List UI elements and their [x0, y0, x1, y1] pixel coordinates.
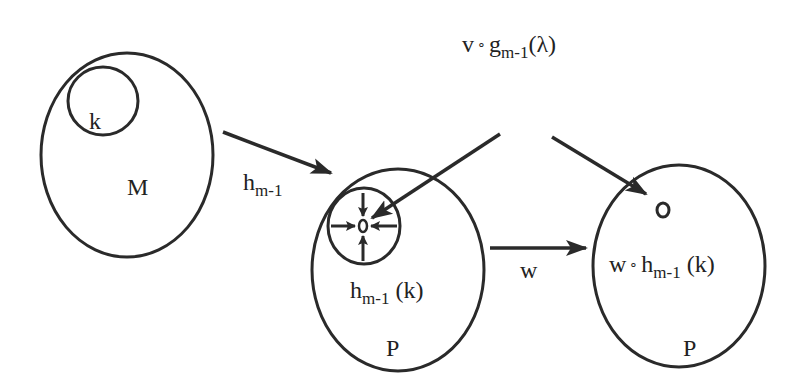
label-g-sub: m-1 — [501, 43, 528, 62]
label-k: k — [89, 109, 101, 133]
label-w-image-arg: (k) — [681, 251, 715, 277]
subset-k-circle — [68, 67, 138, 135]
label-h-image-base: h — [350, 277, 362, 303]
label-m: M — [127, 175, 148, 199]
set-m-circle — [41, 53, 213, 257]
compose-symbol: ∘ — [626, 257, 641, 272]
arrow-v-g-to-right — [552, 137, 646, 194]
label-h-image-arg: (k) — [389, 277, 423, 303]
label-w-image-pre: w — [609, 251, 626, 277]
label-h-arrow: hm-1 — [243, 170, 282, 194]
label-h-image-sub: m-1 — [362, 289, 389, 308]
arrow-v-g-to-middle — [372, 134, 500, 218]
diagram-graphics — [0, 0, 803, 376]
label-h-sub: m-1 — [255, 181, 282, 200]
label-v: v — [462, 31, 474, 57]
label-w-image-sub: m-1 — [653, 263, 680, 282]
label-p-middle: P — [386, 336, 399, 360]
label-v-g-lambda: v∘gm-1(λ) — [462, 32, 556, 56]
label-w-image-base: h — [641, 251, 653, 277]
label-w-arrow: w — [520, 258, 537, 282]
point-oval — [359, 220, 367, 232]
diagram-canvas: k M hm-1 v∘gm-1(λ) hm-1 (k) P w w∘hm-1 (… — [0, 0, 803, 376]
label-g: g — [489, 31, 501, 57]
label-w-image: w∘hm-1 (k) — [609, 252, 715, 276]
label-h-base: h — [243, 169, 255, 195]
label-p-right: P — [683, 336, 696, 360]
compose-symbol: ∘ — [474, 37, 489, 52]
label-lambda-arg: (λ) — [528, 31, 556, 57]
point-circle — [657, 203, 669, 217]
label-h-image: hm-1 (k) — [350, 278, 423, 302]
arrow-h — [223, 132, 331, 173]
